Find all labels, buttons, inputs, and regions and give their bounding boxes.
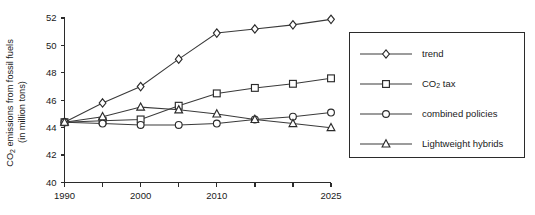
- x-tick-label: 2000: [130, 190, 151, 201]
- y-tick-label: 48: [46, 67, 57, 78]
- y-tick-label: 52: [46, 12, 57, 23]
- svg-text:CO2 emissions from fossil fuel: CO2 emissions from fossil fuels: [5, 39, 16, 167]
- y-tick-label: 42: [46, 149, 57, 160]
- legend-item-label: combined policies: [422, 108, 498, 119]
- diamond-marker: [175, 55, 182, 63]
- square-marker: [251, 85, 258, 92]
- legend-item-label: trend: [422, 48, 444, 59]
- circle-marker: [213, 120, 220, 127]
- diamond-marker: [137, 82, 144, 90]
- square-marker: [213, 90, 220, 97]
- y-tick-label: 50: [46, 40, 57, 51]
- square-marker: [328, 75, 335, 82]
- y-tick-label: 40: [46, 177, 57, 188]
- circle-marker: [175, 122, 182, 129]
- emissions-line-chart: CO2 emissions from fossil fuels (in mill…: [0, 0, 535, 215]
- square-marker: [383, 81, 390, 88]
- chart-figure: CO2 emissions from fossil fuels (in mill…: [0, 0, 535, 215]
- diamond-marker: [99, 99, 106, 107]
- triangle-marker: [137, 103, 145, 110]
- y-tick-labels: 40424446485052: [46, 12, 57, 188]
- x-tick-label: 2010: [206, 190, 227, 201]
- y-axis-title-rest: emissions from fossil fuels: [5, 39, 15, 149]
- y-axis-title-prefix: CO: [5, 153, 15, 167]
- y-tick-label: 44: [46, 122, 57, 133]
- circle-marker: [99, 120, 106, 127]
- circle-marker: [137, 122, 144, 129]
- axis-lines: [65, 18, 332, 183]
- y-axis-title-units: (in million tons): [17, 81, 27, 143]
- diamond-marker: [328, 15, 335, 23]
- y-axis-title: CO2 emissions from fossil fuels (in mill…: [5, 39, 27, 167]
- series-group: [61, 15, 335, 131]
- x-tick-label: 1990: [54, 190, 75, 201]
- x-tick-labels: 1990200020102025: [54, 190, 342, 201]
- diamond-marker: [213, 29, 220, 37]
- square-marker: [290, 80, 297, 87]
- y-tick-label: 46: [46, 95, 57, 106]
- diamond-marker: [251, 25, 258, 33]
- plot-axes: 40424446485052 1990200020102025: [46, 12, 342, 200]
- legend: trendCO2 taxcombined policiesLightweight…: [350, 33, 525, 158]
- legend-item-label: Lightweight hybrids: [422, 138, 504, 149]
- x-tick-label: 2025: [320, 190, 341, 201]
- circle-marker: [328, 109, 335, 116]
- series-line: [65, 19, 332, 122]
- diamond-marker: [290, 21, 297, 29]
- circle-marker: [383, 111, 390, 118]
- data-series: [61, 15, 334, 126]
